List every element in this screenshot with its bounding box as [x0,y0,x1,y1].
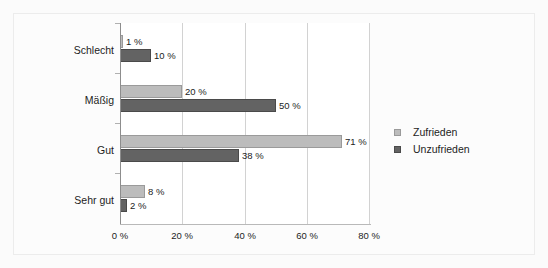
y-axis-tick-1 [115,73,120,74]
category-label-schlecht: Schlecht [10,45,114,56]
legend-label-zufrieden: Zufrieden [413,127,457,138]
chart-legend: Zufrieden Unzufrieden [394,124,514,158]
bar-value-sehr-gut-unzufrieden: 2 % [130,201,146,211]
gridline-40 [245,23,246,224]
legend-label-unzufrieden: Unzufrieden [413,144,470,155]
gridline-80 [369,23,370,224]
bar-maessig-unzufrieden[interactable]: 50 % [120,99,276,112]
legend-item-zufrieden[interactable]: Zufrieden [394,124,514,141]
legend-swatch-zufrieden-icon [394,129,401,136]
bar-gut-unzufrieden[interactable]: 38 % [120,149,239,162]
bar-gut-zufrieden[interactable]: 71 % [120,135,342,148]
bar-chart-figure: 1 % 10 % 20 % 50 % 71 % 38 % [0,0,548,268]
x-tick-label-80: 80 % [358,231,380,241]
bar-maessig-zufrieden[interactable]: 20 % [120,85,182,98]
category-label-maessig: Mäßig [10,95,114,106]
x-tick-label-0: 0 % [112,231,128,241]
bar-sehr-gut-zufrieden[interactable]: 8 % [120,185,145,198]
legend-item-unzufrieden[interactable]: Unzufrieden [394,141,514,158]
category-label-gut: Gut [10,145,114,156]
x-tick-label-20: 20 % [171,231,193,241]
bar-value-maessig-zufrieden: 20 % [185,87,207,97]
y-axis-tick-3 [115,173,120,174]
category-label-sehr-gut: Sehr gut [10,195,114,206]
bar-value-gut-zufrieden: 71 % [345,137,367,147]
bar-value-sehr-gut-zufrieden: 8 % [148,187,164,197]
gridline-20 [182,23,183,224]
bar-schlecht-unzufrieden[interactable]: 10 % [120,49,151,62]
plot-area: 1 % 10 % 20 % 50 % 71 % 38 % [120,23,370,224]
y-axis-tick-0 [115,23,120,24]
y-axis-tick-2 [115,123,120,124]
x-tick-label-60: 60 % [296,231,318,241]
bar-sehr-gut-unzufrieden[interactable]: 2 % [120,199,127,212]
x-axis-tick-labels: 0 % 20 % 40 % 60 % 80 % [120,231,371,247]
gridline-60 [307,23,308,224]
bar-value-schlecht-zufrieden: 1 % [126,37,142,47]
legend-swatch-unzufrieden-icon [394,146,401,153]
bar-value-maessig-unzufrieden: 50 % [279,101,301,111]
x-axis-line [120,224,371,225]
bar-value-schlecht-unzufrieden: 10 % [154,51,176,61]
y-axis-line [120,23,121,224]
x-tick-label-40: 40 % [234,231,256,241]
bar-value-gut-unzufrieden: 38 % [242,151,264,161]
category-axis-labels: Schlecht Mäßig Gut Sehr gut [6,23,114,224]
